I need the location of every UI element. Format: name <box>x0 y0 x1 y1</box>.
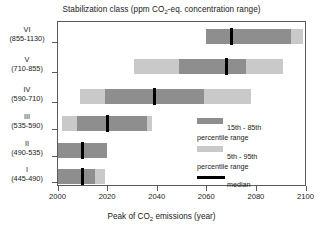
x-axis-title-post: emissions (year) <box>153 212 215 221</box>
legend-label-line2: percentile range <box>197 134 301 143</box>
chart-title-subscript: 2 <box>164 9 167 15</box>
x-axis-tick-label: 2100 <box>286 192 323 201</box>
median-marker <box>153 88 156 105</box>
bar-row-v <box>0 59 323 74</box>
x-axis-tick <box>157 186 158 191</box>
x-axis-title: Peak of CO2 emissions (year) <box>0 212 323 221</box>
chart-title-pre: Stabilization class (ppm CO <box>62 5 164 14</box>
x-axis-tick-label: 2020 <box>87 192 127 201</box>
median-marker <box>225 58 228 75</box>
median-marker <box>81 142 84 159</box>
band-15th-85th-percentile <box>58 169 95 184</box>
median-marker <box>81 168 84 185</box>
bar-row-vi <box>0 29 323 44</box>
legend-swatch-median <box>197 176 225 179</box>
x-axis-tick-label: 2060 <box>186 192 226 201</box>
chart-title-post: -eq. concentration range) <box>168 5 261 14</box>
chart-legend: 15th - 85thpercentile range5th - 95thper… <box>197 116 301 193</box>
legend-label: 15th - 85thpercentile range <box>197 123 301 143</box>
median-marker <box>106 115 109 132</box>
median-marker <box>230 28 233 45</box>
legend-label: 5th - 95thpercentile range <box>197 152 301 172</box>
legend-swatch-light <box>197 146 223 152</box>
band-15th-85th-percentile <box>206 29 290 44</box>
x-axis-tick-label: 2040 <box>137 192 177 201</box>
band-15th-85th-percentile <box>77 116 146 131</box>
chart-figure: Stabilization class (ppm CO2-eq. concent… <box>0 0 323 235</box>
bar-row-iv <box>0 89 323 104</box>
legend-swatch-dark <box>197 118 223 124</box>
x-axis-tick <box>58 186 59 191</box>
x-axis-tick <box>107 186 108 191</box>
legend-item: 15th - 85thpercentile range <box>197 116 301 143</box>
x-axis-tick-label: 2080 <box>236 192 276 201</box>
legend-item: median <box>197 173 301 191</box>
legend-item: 5th - 95thpercentile range <box>197 145 301 172</box>
x-axis-title-subscript: 2 <box>150 216 153 222</box>
legend-label-line2: percentile range <box>197 163 301 172</box>
band-15th-85th-percentile <box>179 59 246 74</box>
legend-label: median <box>227 180 251 189</box>
chart-title: Stabilization class (ppm CO2-eq. concent… <box>0 5 323 14</box>
x-axis-tick-label: 2000 <box>38 192 78 201</box>
x-axis-tick <box>306 186 307 191</box>
x-axis-title-pre: Peak of CO <box>107 212 149 221</box>
